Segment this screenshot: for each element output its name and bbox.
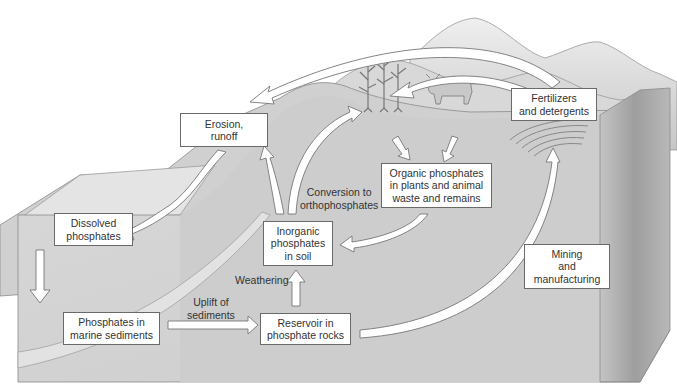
node-label-line: Fertilizers [531,92,577,105]
node-label-line: phosphates [66,230,120,243]
node-label-line: Organic phosphates [390,167,484,180]
node-label-line: manufacturing [534,273,601,286]
node-label-line: and detergents [519,105,589,118]
node-label-line: in soil [285,250,312,263]
node-organic-phosphates: Organic phosphates in plants and animal … [381,163,492,208]
node-label-line: Dissolved [71,217,117,230]
node-label-line: marine sediments [70,329,153,342]
node-erosion-runoff: Erosion, runoff [180,113,268,147]
edge-label-uplift: Uplift of sediments [187,296,235,321]
edge-label-weathering: Weathering [235,274,289,287]
node-label-line: Reservoir in [277,317,333,330]
node-inorganic-phosphates: Inorganic phosphates in soil [263,221,333,266]
edge-label-line: Uplift of [187,296,235,309]
node-label-line: runoff [211,130,238,143]
node-label-line: and [558,260,576,273]
node-label-line: Inorganic [276,225,319,238]
node-label-line: phosphates [271,237,325,250]
edge-label-line: Conversion to [300,186,378,199]
edge-label-line: sediments [187,309,235,322]
node-dissolved-phosphates: Dissolved phosphates [54,213,133,246]
node-label-line: Erosion, [205,118,244,131]
node-label-line: Mining [552,248,583,261]
node-mining-manufacturing: Mining and manufacturing [524,244,610,289]
node-fertilizers-detergents: Fertilizers and detergents [511,88,597,121]
node-label-line: Phosphates in [78,316,145,329]
edge-label-line: Weathering [235,274,289,286]
node-label-line: in plants and animal [390,179,483,192]
edge-label-conversion: Conversion to orthophosphates [300,186,378,211]
node-reservoir-phosphate-rocks: Reservoir in phosphate rocks [260,313,351,345]
node-label-line: phosphate rocks [267,329,344,342]
node-label-line: waste and remains [392,192,480,205]
node-marine-sediments: Phosphates in marine sediments [63,312,160,345]
block-side [600,88,670,382]
edge-label-line: orthophosphates [300,199,378,212]
